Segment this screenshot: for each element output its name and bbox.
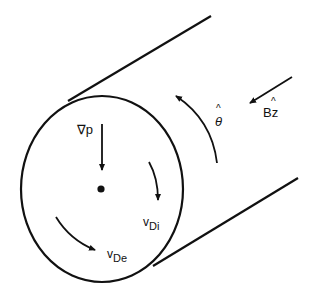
v-di-label: vDi xyxy=(143,215,159,232)
cylinder xyxy=(21,16,298,282)
theta-label: θ xyxy=(215,114,222,129)
ion-drift: vDi xyxy=(143,162,159,232)
axis-dot xyxy=(97,185,104,192)
pressure-gradient: ∇p xyxy=(76,122,102,170)
plasma-cylinder-diagram: ∇p vDi vDe ^ θ ^ Bz xyxy=(0,0,314,296)
cylinder-top-edge xyxy=(68,16,211,101)
v-de-label: vDe xyxy=(107,247,127,264)
grad-p-label: ∇p xyxy=(76,122,93,137)
theta-arrow xyxy=(176,96,217,163)
v-de-arrow xyxy=(56,217,95,250)
b-field-label: Bz xyxy=(263,105,278,120)
cylinder-bottom-edge xyxy=(153,178,298,266)
v-di-arrow xyxy=(149,162,158,200)
magnetic-field: ^ Bz xyxy=(250,77,292,120)
theta-hat-mark: ^ xyxy=(216,103,221,114)
theta-direction: ^ θ xyxy=(176,96,222,163)
electron-drift: vDe xyxy=(56,217,127,264)
